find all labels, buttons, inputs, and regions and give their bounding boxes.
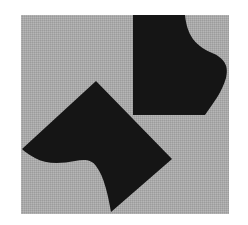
figure <box>0 0 248 225</box>
